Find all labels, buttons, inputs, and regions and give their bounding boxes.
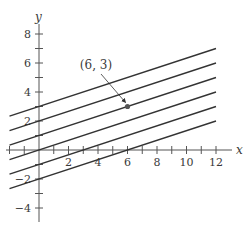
x-axis-label: x: [236, 143, 243, 157]
y-tick-label: 6: [24, 57, 31, 70]
annotation-arrow: [101, 74, 126, 103]
point-annotation-label: (6, 3): [80, 58, 112, 72]
x-tick-label: 4: [95, 156, 102, 169]
y-axis-label: y: [34, 10, 42, 24]
y-tick-label: 4: [24, 86, 31, 99]
x-tick-label: 8: [154, 156, 161, 169]
y-tick-label: −4: [15, 202, 31, 215]
x-tick-label: 2: [65, 156, 72, 169]
series-line: [10, 63, 217, 131]
x-tick-label: 12: [209, 156, 223, 169]
x-tick-label: 6: [124, 156, 131, 169]
chart: 246810128642−2−4 (6, 3) x y: [0, 0, 250, 227]
series-line: [10, 49, 217, 117]
series-line: [10, 121, 217, 189]
y-tick-label: 8: [24, 28, 31, 41]
x-tick-label: 10: [180, 156, 194, 169]
data-point: [125, 104, 130, 109]
